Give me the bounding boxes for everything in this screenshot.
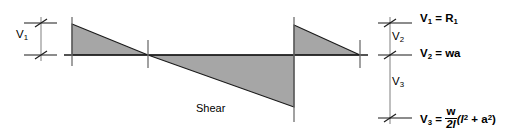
v2-dimension-label: V2: [392, 31, 404, 44]
v2-equation-operator: =: [435, 47, 442, 59]
v1-dimension-sub: 1: [24, 33, 28, 42]
v3-plus-operator: +: [471, 113, 478, 125]
v3-paren-close: ): [492, 113, 496, 125]
v1-dimension-label: V1: [16, 29, 28, 42]
v3-equation-operator: =: [435, 113, 442, 125]
shear-positive-region-left: [72, 24, 148, 55]
v3-equation-lhs-base: V: [420, 113, 428, 125]
v1-dimension-base: V: [16, 28, 24, 40]
v2-dimension-sub: 2: [400, 35, 404, 44]
v1-equation-rhs-sub: 1: [453, 17, 457, 26]
shear-diagram-figure: V1 Shear V2 V3 V1 = R1 V2 = wa V3 = w2l(…: [0, 0, 511, 140]
v3-fraction-denominator: 2l: [445, 119, 457, 131]
v1-equation-operator: =: [435, 12, 442, 24]
shear-negative-region: [148, 55, 294, 107]
v2-equation-lhs-base: V: [420, 47, 428, 59]
v3-dimension-label: V3: [392, 76, 404, 89]
v1-equation: V1 = R1: [420, 13, 458, 26]
v3-equation-lhs-sub: 3: [428, 118, 432, 127]
v3-dimension-base: V: [392, 75, 400, 87]
v1-equation-lhs-base: V: [420, 12, 428, 24]
v3-term1-sup: 2: [464, 113, 468, 122]
v1-dimension-marks: [24, 17, 57, 61]
v3-fraction-numerator: w: [445, 106, 457, 119]
v2-dimension-base: V: [392, 30, 400, 42]
v3-equation: V3 = w2l(l2 + a2): [420, 106, 496, 130]
v1-equation-lhs-sub: 1: [428, 17, 432, 26]
shear-positive-region-right: [294, 25, 360, 55]
v2-equation-rhs: wa: [445, 47, 460, 59]
v2-equation-lhs-sub: 2: [428, 52, 432, 61]
v2-equation: V2 = wa: [420, 48, 461, 61]
v3-dimension-sub: 3: [400, 80, 404, 89]
shear-caption: Shear: [196, 103, 225, 114]
v3-equation-fraction: w2l: [445, 106, 457, 130]
